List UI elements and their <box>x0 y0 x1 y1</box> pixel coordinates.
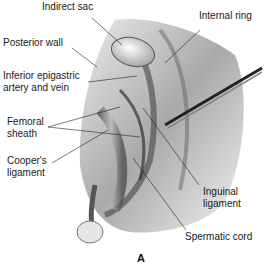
panel-letter: A <box>137 252 145 264</box>
anatomical-figure: Indirect sac Internal ring Posterior wal… <box>0 0 265 264</box>
label-coopers-ligament-line2: ligament <box>7 167 45 179</box>
label-femoral-sheath-line1: Femoral <box>7 116 44 128</box>
label-internal-ring: Internal ring <box>199 10 252 22</box>
label-inferior-epigastric-line1: Inferior epigastric <box>3 70 80 82</box>
label-inferior-epigastric-line2: artery and vein <box>3 82 69 94</box>
label-coopers-ligament-line1: Cooper's <box>7 155 47 167</box>
label-spermatic-cord: Spermatic cord <box>185 231 252 243</box>
label-femoral-sheath-line2: sheath <box>7 128 37 140</box>
label-indirect-sac: Indirect sac <box>42 1 93 13</box>
label-posterior-wall: Posterior wall <box>3 37 63 49</box>
label-inguinal-ligament-line1: Inguinal <box>203 186 238 198</box>
label-inguinal-ligament-line2: ligament <box>203 198 241 210</box>
